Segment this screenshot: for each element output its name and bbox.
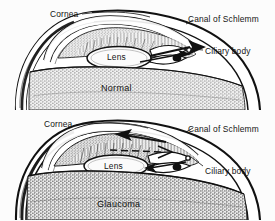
label-ciliary-body-normal: Ciliary body: [205, 46, 251, 56]
lens-label-normal: Lens: [107, 52, 126, 62]
lens-label-glaucoma: Lens: [104, 161, 123, 171]
caption-normal: Normal: [101, 83, 132, 93]
label-cornea-normal: Cornea: [50, 9, 78, 19]
label-canal-of-schlemm-normal: Canal of Schlemm: [188, 14, 259, 24]
label-canal-of-schlemm-glaucoma: Canal of Schlemm: [188, 124, 259, 134]
label-cornea-glaucoma: Cornea: [44, 119, 72, 129]
eye-anatomy-figure: Lens Cornea Canal of Schlemm Ciliary bod…: [0, 0, 275, 221]
label-ciliary-body-glaucoma: Ciliary body: [205, 166, 251, 176]
normal-eye-drawing: [16, 11, 260, 110]
panel-normal-eye: Lens Cornea Canal of Schlemm Ciliary bod…: [0, 0, 275, 110]
panel-glaucoma-eye: Lens Cornea Canal of Schlemm Ciliary bod…: [0, 110, 275, 220]
caption-glaucoma: Glaucoma: [97, 199, 140, 209]
canal-of-schlemm-marker: [186, 156, 190, 160]
